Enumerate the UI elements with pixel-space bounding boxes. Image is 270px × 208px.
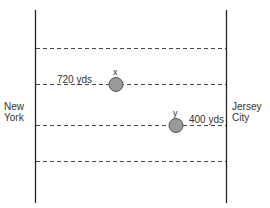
river-diagram: [0, 0, 270, 208]
point-x-label: x: [113, 67, 118, 78]
point-y-marker: [169, 119, 183, 133]
point-y-label: y: [173, 108, 178, 119]
jersey-city-label: Jersey City: [232, 101, 261, 123]
new-york-label-line2: York: [4, 112, 24, 123]
point-x-distance-label: 720 yds: [57, 74, 92, 85]
new-york-label-line1: New: [4, 101, 24, 112]
jersey-city-label-line1: Jersey: [232, 101, 261, 112]
new-york-label: New York: [4, 101, 24, 123]
point-y-distance-label: 400 yds: [189, 114, 224, 125]
jersey-city-label-line2: City: [232, 112, 261, 123]
point-x-marker: [109, 78, 123, 92]
